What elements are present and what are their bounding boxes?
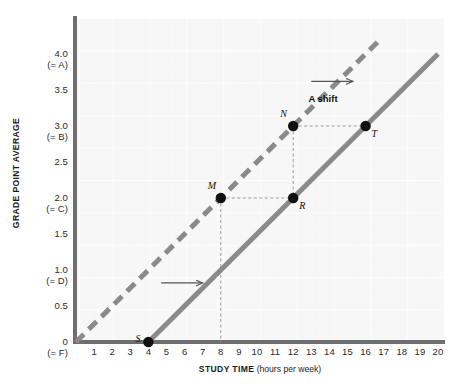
- shift-arrows-group: [161, 81, 353, 283]
- guide-lines-group: [221, 126, 366, 342]
- data-point-n: [288, 121, 298, 131]
- data-point-s: [143, 337, 153, 347]
- chart-plot-svg: [0, 0, 472, 388]
- data-point-t: [360, 121, 370, 131]
- series-lines-group: [76, 40, 438, 342]
- data-point-r: [288, 193, 298, 203]
- chart-figure: 4.0(= A)3.53.0(= B)2.52.0(= C)1.51.0(= D…: [0, 0, 472, 388]
- series-line-original-line: [76, 40, 380, 342]
- point-label-n: N: [280, 108, 287, 119]
- data-point-m: [216, 193, 226, 203]
- point-label-m: M: [208, 180, 216, 191]
- point-label-t: T: [372, 128, 378, 139]
- shift-annotation-label: A shift: [308, 93, 337, 104]
- point-label-r: R: [299, 200, 305, 211]
- point-label-s: S: [135, 333, 140, 344]
